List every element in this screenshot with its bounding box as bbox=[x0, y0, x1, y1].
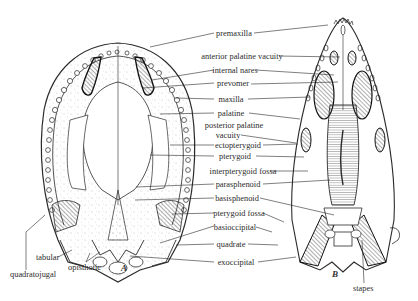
label-vacuity: vacuity bbox=[216, 131, 241, 140]
skull-b bbox=[292, 18, 400, 272]
panel-label-a: A bbox=[121, 263, 127, 273]
label-stapes: stapes bbox=[353, 284, 373, 293]
label-tabular: tabular bbox=[36, 253, 59, 262]
label-basisphenoid: basisphenoid bbox=[215, 194, 259, 203]
skull-a bbox=[41, 43, 194, 282]
label-exoccipital: exoccipital bbox=[218, 258, 255, 267]
label-ectopterygoid: ectopterygoid bbox=[215, 141, 261, 150]
panel-label-b: B bbox=[332, 269, 338, 279]
label-basioccipital: basioccipital bbox=[214, 223, 256, 232]
label-internal-nares: internal nares bbox=[212, 66, 257, 75]
label-opisthotic: opisthotic bbox=[68, 263, 101, 272]
label-anterior-palatine-vacuity: anterior palatine vacuity bbox=[201, 52, 282, 61]
label-quadratojugal: quadratojugal bbox=[10, 270, 56, 279]
label-premaxilla: premaxilla bbox=[216, 29, 252, 38]
label-quadrate: quadrate bbox=[217, 240, 246, 249]
label-pterygoid: pterygoid bbox=[219, 152, 251, 161]
label-prevomer: prevomer bbox=[217, 79, 249, 88]
label-parasphenoid: parasphenoid bbox=[216, 180, 261, 189]
label-posterior-palatine: posterior palatine bbox=[205, 121, 263, 130]
label-pterygoid-fossa: pterygoid fossa bbox=[213, 209, 264, 218]
label-maxilla: maxilla bbox=[218, 95, 243, 104]
label-interpterygoid-fossa: interpterygoid fossa bbox=[210, 167, 277, 176]
label-palatine: palatine bbox=[218, 109, 245, 118]
skull-palate-figure bbox=[0, 0, 418, 301]
